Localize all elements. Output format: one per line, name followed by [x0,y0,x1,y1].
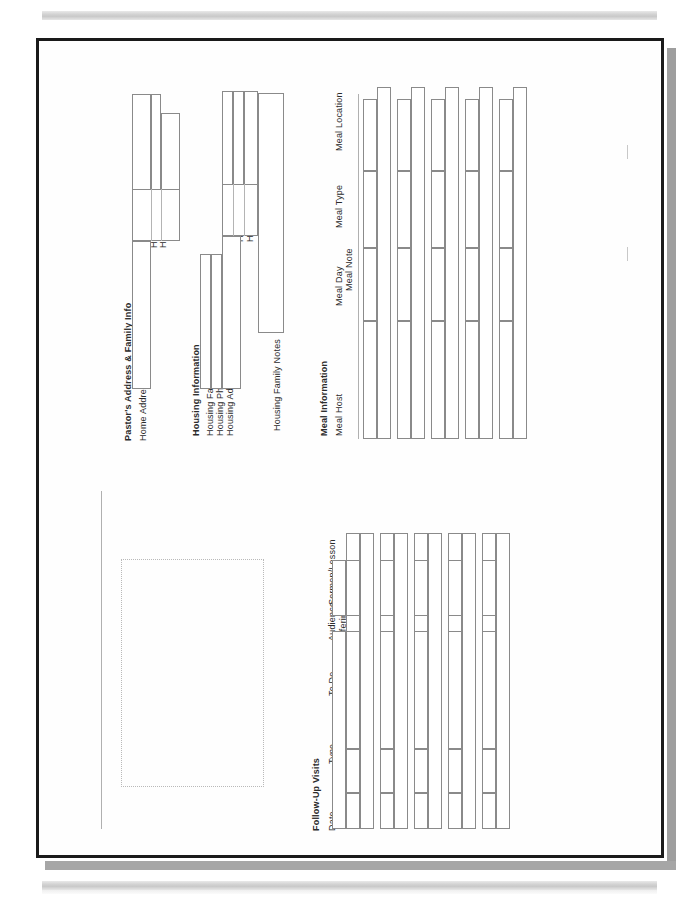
input-housing-family[interactable] [200,254,211,389]
meal-row-spacer[interactable] [479,87,493,439]
meal-cell-day[interactable] [363,248,377,321]
scan-band-bottom [42,881,657,890]
field-label-housing-family-notes: Housing Family Notes [272,339,282,431]
followup-row-spacer[interactable] [462,533,476,829]
followup-row-spacer[interactable] [394,533,408,829]
input-home-address-long[interactable] [132,241,151,389]
meal-grid-left-rule [358,94,359,439]
followup-cell-date[interactable] [380,793,394,829]
meal-cell-host[interactable] [397,321,411,439]
divider-home-state-zip [161,189,162,241]
input-home-city-label-cell[interactable] [132,189,180,241]
page-fold-rule [101,491,102,829]
meal-cell-day[interactable] [499,248,513,321]
meal-cell-host[interactable] [431,321,445,439]
dotted-placeholder-frame [121,559,264,787]
followup-row-spacer[interactable] [360,533,374,829]
followup-cell-todo[interactable] [448,631,462,749]
meal-cell-type[interactable] [431,171,445,248]
input-housing-phone[interactable] [211,254,222,389]
followup-cell-date[interactable] [448,793,462,829]
followup-cell-offering[interactable] [414,560,428,616]
followup-cell-results[interactable] [482,749,496,793]
meal-cell-host[interactable] [465,321,479,439]
followup-row-spacer[interactable] [496,533,510,829]
followup-cell-results[interactable] [414,749,428,793]
meal-cell-type[interactable] [363,171,377,248]
scanned-page: Pastor's Address & Family Info Home Addr… [36,38,664,858]
page-shadow-right [667,48,676,864]
followup-cell-todo[interactable] [380,631,394,749]
column-label-meal-host: Meal Host [334,394,344,436]
column-label-meal-location: Meal Location [334,92,344,151]
stray-tick-mark [627,145,628,159]
followup-row-spacer[interactable] [428,533,442,829]
input-housing-family-notes[interactable] [258,93,284,333]
divider-housing-city-state [233,184,234,236]
meal-cell-host[interactable] [363,321,377,439]
followup-cell-date[interactable] [346,793,360,829]
followup-cell-date[interactable] [482,793,496,829]
followup-cell-todo[interactable] [414,631,428,749]
meal-cell-location[interactable] [431,99,445,171]
column-label-meal-note: Meal Note [344,248,354,291]
page-shadow-bottom [45,861,676,870]
meal-cell-day[interactable] [397,248,411,321]
followup-cell-offering[interactable] [482,560,496,616]
followup-cell-offering[interactable] [448,560,462,616]
meal-row-spacer[interactable] [377,87,391,439]
section-title-follow-up-visits: Follow-Up Visits [311,758,321,831]
column-label-meal-day: Meal Day [334,266,344,306]
input-housing-city-label-cell[interactable] [222,184,258,236]
input-housing-address[interactable] [222,236,241,389]
followup-cell-results[interactable] [380,749,394,793]
meal-cell-location[interactable] [397,99,411,171]
column-label-meal-type: Meal Type [334,185,344,228]
meal-row-spacer[interactable] [445,87,459,439]
divider-housing-state-zip [244,184,245,236]
followup-cell-todo[interactable] [482,631,496,749]
followup-header-cell-offering[interactable] [332,560,346,616]
meal-cell-day[interactable] [465,248,479,321]
meal-cell-location[interactable] [465,99,479,171]
meal-cell-location[interactable] [363,99,377,171]
meal-cell-day[interactable] [431,248,445,321]
meal-cell-host[interactable] [499,321,513,439]
meal-cell-type[interactable] [499,171,513,248]
followup-header-cell-results[interactable] [332,631,346,829]
followup-cell-date[interactable] [414,793,428,829]
divider-home-city-state [151,189,152,241]
followup-cell-offering[interactable] [346,560,360,616]
meal-cell-type[interactable] [397,171,411,248]
followup-cell-todo[interactable] [346,631,360,749]
followup-cell-offering[interactable] [380,560,394,616]
followup-cell-results[interactable] [448,749,462,793]
followup-cell-results[interactable] [346,749,360,793]
scan-band-top [42,11,657,20]
meal-row-spacer[interactable] [411,87,425,439]
stray-tick-mark [627,247,628,261]
section-title-meal-information: Meal Information [319,361,329,436]
meal-cell-type[interactable] [465,171,479,248]
meal-cell-location[interactable] [499,99,513,171]
meal-row-spacer[interactable] [513,87,527,439]
